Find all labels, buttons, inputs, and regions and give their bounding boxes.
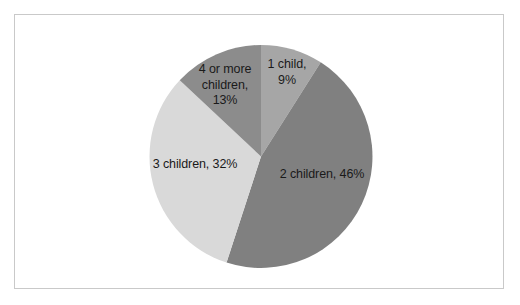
pie-chart-svg — [0, 0, 520, 305]
pie-label-2-children: 2 children, 46% — [262, 167, 382, 183]
pie-label-4-or-more-children: 4 or more children, 13% — [181, 62, 269, 109]
pie-chart: 1 child, 9% 2 children, 46% 3 children, … — [0, 0, 520, 305]
pie-label-3-children: 3 children, 32% — [133, 157, 257, 173]
